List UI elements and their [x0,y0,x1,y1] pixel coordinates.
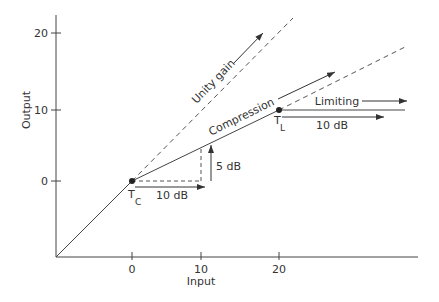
linear-segment [56,181,132,257]
compression-threshold-subscript: C [135,197,141,207]
limiting-threshold-subscript: L [280,123,285,133]
x-tick-20: 20 [272,263,286,276]
limiting-threshold-point [276,107,282,113]
x-ticks: 0 10 20 [129,252,287,276]
y-tick-20: 20 [34,27,48,40]
y-ticks: 20 10 0 [34,27,61,188]
y-tick-0: 0 [41,175,48,188]
compression-output-step-label: 5 dB [216,160,241,173]
x-axis-label: Input [187,275,216,288]
compression-input-step-label: 10 dB [156,189,188,202]
limiting-input-step-label: 10 dB [316,119,348,132]
limiting-label: Limiting [315,95,359,108]
y-axis-label: Output [20,90,33,129]
y-tick-10: 10 [34,104,48,117]
compression-threshold-label: T [127,188,135,201]
compressor-transfer-diagram: 20 10 0 0 10 20 Input Output Unity gain … [0,0,439,302]
unity-gain-arrow [233,33,263,64]
compression-line [132,110,279,181]
x-tick-0: 0 [129,263,136,276]
compression-threshold-point [129,178,135,184]
